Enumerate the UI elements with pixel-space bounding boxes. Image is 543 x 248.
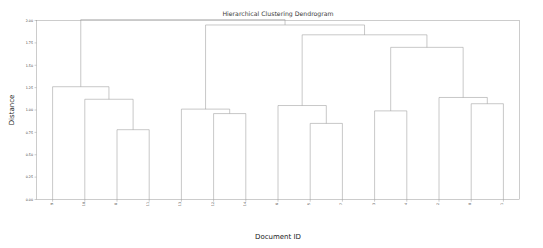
dendrogram-link — [278, 106, 326, 200]
dendrogram-link — [117, 130, 149, 200]
y-tick-label: 0.50 — [26, 153, 33, 157]
dendrogram-figure: Hierarchical Clustering Dendrogram 0.000… — [0, 0, 543, 248]
x-tick-label: 13 — [178, 202, 182, 206]
dendrogram-link — [375, 111, 407, 200]
x-tick-label: 3 — [372, 203, 376, 205]
y-tick-label: 2.00 — [26, 19, 33, 23]
y-tick-label: 1.25 — [26, 86, 33, 90]
x-tick-label: 5 — [307, 203, 311, 205]
x-tick-label: 4 — [404, 203, 408, 205]
y-tick-label: 0.75 — [26, 131, 33, 135]
x-tick-label: 6 — [275, 203, 279, 205]
x-tick-label: 14 — [243, 202, 247, 206]
dendrogram-link — [181, 109, 229, 199]
x-tick-label: 7 — [339, 203, 343, 205]
dendrogram-link — [53, 87, 109, 200]
x-tick-label: 0 — [468, 203, 472, 205]
dendrogram-links — [53, 20, 504, 200]
dendrogram-link — [81, 20, 285, 87]
dendrogram-link — [310, 123, 342, 199]
dendrogram-link — [206, 25, 365, 109]
y-tick-label: 1.75 — [26, 41, 33, 45]
y-tick-label: 0.00 — [26, 198, 33, 202]
dendrogram-link — [391, 47, 463, 111]
dendrogram-link — [214, 114, 246, 200]
y-axis-label: Distance — [8, 95, 16, 126]
x-tick-label: 2 — [436, 203, 440, 205]
x-axis-ticks: 91081113121465734201 — [50, 200, 505, 207]
chart-title-group: Hierarchical Clustering Dendrogram — [222, 10, 333, 18]
x-tick-label: 1 — [500, 203, 504, 205]
y-tick-label: 1.50 — [26, 64, 33, 68]
x-tick-label: 10 — [82, 202, 86, 206]
x-tick-label: 11 — [146, 202, 150, 206]
dendrogram-link — [302, 35, 427, 106]
x-tick-label: 9 — [50, 203, 54, 205]
y-axis-ticks: 0.000.250.500.751.001.251.501.752.00 — [26, 19, 37, 202]
dendrogram-plot: Hierarchical Clustering Dendrogram 0.000… — [0, 0, 543, 248]
chart-title: Hierarchical Clustering Dendrogram — [222, 10, 333, 18]
x-axis-label: Document ID — [255, 233, 301, 241]
dendrogram-link — [439, 97, 487, 199]
dendrogram-link — [85, 99, 133, 199]
x-tick-label: 12 — [211, 202, 215, 206]
dendrogram-link — [471, 104, 503, 200]
y-tick-label: 0.25 — [26, 175, 33, 179]
y-tick-label: 1.00 — [26, 108, 33, 112]
x-tick-label: 8 — [114, 203, 118, 205]
